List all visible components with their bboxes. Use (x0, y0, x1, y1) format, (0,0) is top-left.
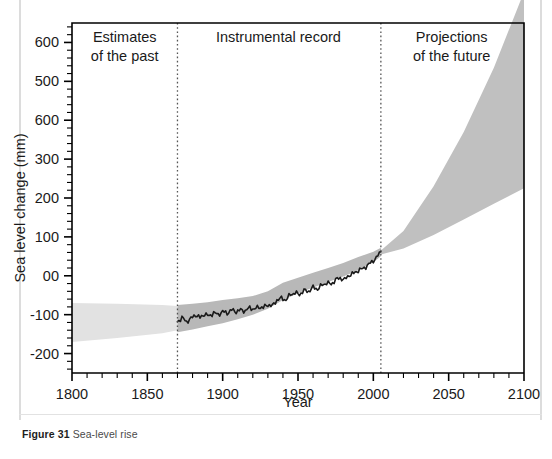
y-tick-label: -200 (30, 346, 59, 362)
y-tick-label: -100 (30, 307, 59, 323)
y-tick-label: 600 (35, 112, 59, 128)
caption-divider (19, 414, 542, 415)
x-tick-label: 2100 (508, 386, 540, 402)
x-tick-label: 1800 (56, 386, 88, 402)
y-axis-title: Sea level change (mm) (12, 133, 28, 282)
x-tick-label: 1900 (207, 386, 239, 402)
x-tick-label: 2050 (433, 386, 465, 402)
figure-page: 1800185019001950200020502100 -200-100001… (0, 0, 552, 459)
chart-canvas: 1800185019001950200020502100 -200-100001… (0, 0, 552, 415)
y-tick-label: 600 (35, 34, 59, 50)
figure-caption-label: Figure 31 (22, 428, 70, 440)
figure-caption-title: Sea-level rise (73, 428, 138, 440)
past-estimates-band (72, 303, 177, 342)
figure-caption: Figure 31 Sea-level rise (22, 428, 522, 440)
y-axis-ticks (64, 27, 72, 369)
x-axis-title: Year (283, 394, 312, 410)
y-tick-label: 200 (35, 190, 59, 206)
x-tick-label: 2000 (357, 386, 389, 402)
y-tick-label: 300 (35, 151, 59, 167)
panel-label-instrumental-record: Instrumental record (216, 29, 341, 45)
panel-label-estimates-of-the-past: Estimatesof the past (91, 29, 159, 64)
panel-label-projections-of-the-future: Projectionsof the future (413, 29, 490, 64)
panel-labels: Estimatesof the pastInstrumental recordP… (91, 29, 491, 64)
instrumental-uncertainty-band (177, 248, 380, 332)
x-tick-label: 1850 (131, 386, 163, 402)
y-tick-label: 100 (35, 229, 59, 245)
x-axis-ticks (72, 373, 524, 381)
y-tick-label: 00 (43, 268, 59, 284)
y-tick-label: 500 (35, 73, 59, 89)
sea-level-rise-chart: 1800185019001950200020502100 -200-100001… (0, 0, 552, 415)
y-axis-tick-labels: -200-10000100200300600500600 (30, 34, 59, 361)
